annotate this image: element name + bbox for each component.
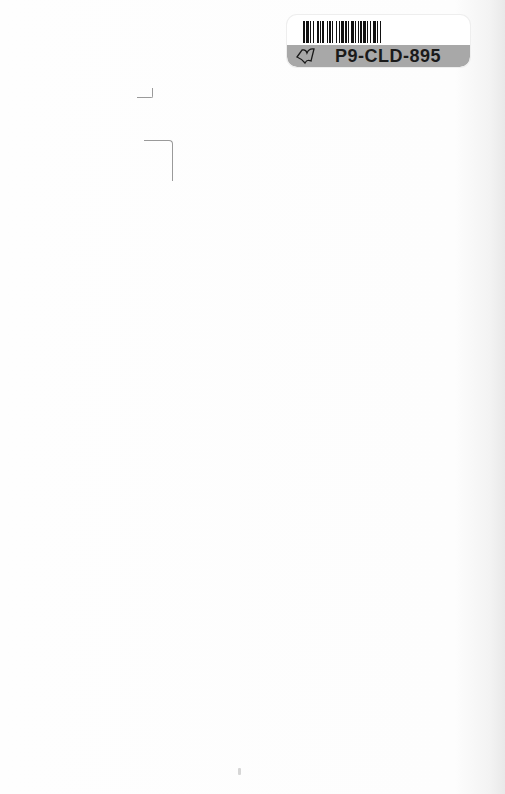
barcode-bars	[303, 21, 463, 43]
label-band: P9-CLD-895	[287, 45, 470, 67]
paper-speck	[238, 768, 241, 775]
pencil-mark-corner-top-right	[144, 140, 173, 181]
pencil-mark-corner-bottom-right	[137, 88, 153, 98]
barcode-code: P9-CLD-895	[335, 46, 441, 67]
book-page: P9-CLD-895	[0, 0, 505, 794]
barcode-label: P9-CLD-895	[287, 15, 470, 67]
book-icon	[295, 47, 317, 65]
